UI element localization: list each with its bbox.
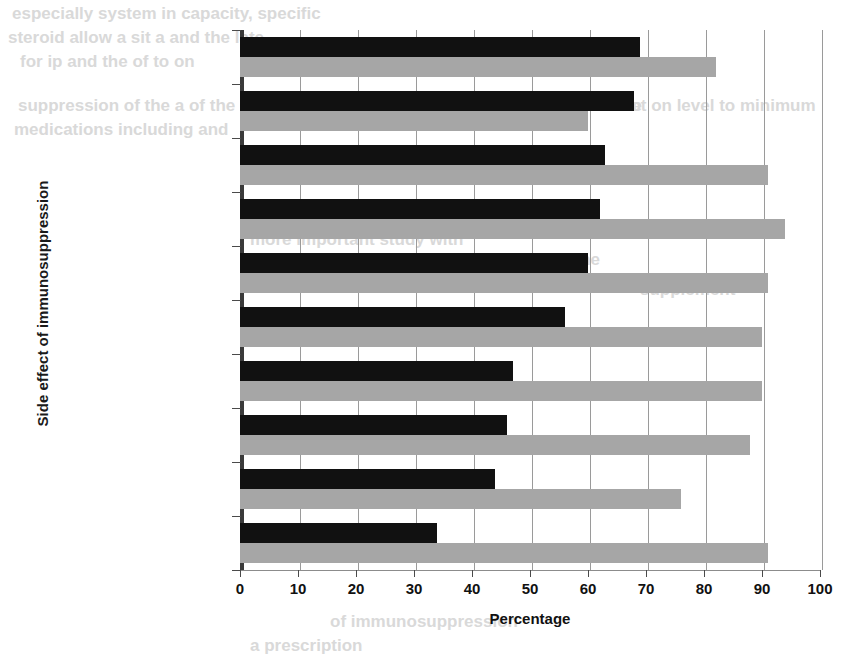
bar-group bbox=[0, 37, 849, 77]
bar-light bbox=[240, 489, 681, 509]
y-tick-mark bbox=[232, 192, 241, 193]
x-tick-mark bbox=[298, 570, 299, 577]
bar-group bbox=[0, 307, 849, 347]
x-tick-label: 90 bbox=[754, 580, 771, 597]
bar-dark bbox=[240, 361, 513, 381]
y-tick-mark bbox=[232, 246, 241, 247]
y-tick-mark bbox=[232, 516, 241, 517]
bar-group bbox=[0, 199, 849, 239]
bar-group bbox=[0, 415, 849, 455]
x-tick-mark bbox=[588, 570, 589, 577]
x-tick-mark bbox=[530, 570, 531, 577]
bar-light bbox=[240, 57, 716, 77]
y-tick-mark bbox=[232, 408, 241, 409]
bar-group bbox=[0, 145, 849, 185]
bar-dark bbox=[240, 37, 640, 57]
x-tick-mark bbox=[762, 570, 763, 577]
x-tick-label: 70 bbox=[638, 580, 655, 597]
x-tick-label: 30 bbox=[406, 580, 423, 597]
x-tick-mark bbox=[414, 570, 415, 577]
bar-dark bbox=[240, 91, 634, 111]
x-tick-mark bbox=[646, 570, 647, 577]
bar-light bbox=[240, 111, 588, 131]
y-tick-mark bbox=[232, 354, 241, 355]
bar-group bbox=[0, 361, 849, 401]
x-tick-label: 50 bbox=[522, 580, 539, 597]
bar-light bbox=[240, 327, 762, 347]
x-tick-label: 80 bbox=[696, 580, 713, 597]
x-tick-label: 20 bbox=[348, 580, 365, 597]
bar-dark bbox=[240, 145, 605, 165]
bar-group bbox=[0, 91, 849, 131]
x-tick-label: 100 bbox=[807, 580, 832, 597]
bar-light bbox=[240, 219, 785, 239]
bar-light bbox=[240, 435, 750, 455]
y-tick-mark bbox=[232, 30, 241, 31]
bar-group bbox=[0, 469, 849, 509]
x-axis-title: Percentage bbox=[240, 610, 820, 627]
x-tick-label: 10 bbox=[290, 580, 307, 597]
bar-group bbox=[0, 253, 849, 293]
y-tick-mark bbox=[232, 462, 241, 463]
y-tick-mark bbox=[232, 138, 241, 139]
y-tick-mark bbox=[232, 300, 241, 301]
x-tick-label: 60 bbox=[580, 580, 597, 597]
y-tick-mark bbox=[232, 84, 241, 85]
bar-light bbox=[240, 165, 768, 185]
x-tick-label: 40 bbox=[464, 580, 481, 597]
bar-dark bbox=[240, 253, 588, 273]
x-tick-mark bbox=[704, 570, 705, 577]
x-tick-label: 0 bbox=[236, 580, 244, 597]
bar-light bbox=[240, 381, 762, 401]
bar-dark bbox=[240, 523, 437, 543]
bar-dark bbox=[240, 307, 565, 327]
y-tick-mark bbox=[232, 570, 241, 571]
bar-dark bbox=[240, 199, 600, 219]
bar-group bbox=[0, 523, 849, 563]
x-tick-mark bbox=[240, 570, 241, 577]
x-tick-mark bbox=[472, 570, 473, 577]
x-tick-mark bbox=[356, 570, 357, 577]
x-tick-mark bbox=[820, 570, 821, 577]
bar-light bbox=[240, 273, 768, 293]
bar-light bbox=[240, 543, 768, 563]
bar-dark bbox=[240, 469, 495, 489]
bar-dark bbox=[240, 415, 507, 435]
